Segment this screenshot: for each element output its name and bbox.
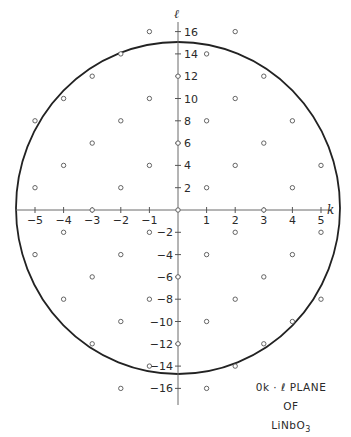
reflection-point: [290, 252, 294, 256]
caption-subscript: 3: [305, 425, 311, 434]
l-axis-label: ℓ: [174, 7, 179, 21]
reflection-point: [33, 119, 37, 123]
l-tick-label: −10: [150, 316, 173, 329]
reflection-point: [61, 163, 65, 167]
reflection-point: [233, 29, 237, 33]
k-tick-label: −3: [84, 214, 100, 227]
l-tick-label: 12: [184, 70, 198, 83]
reflection-point: [33, 186, 37, 190]
reflection-point: [90, 342, 94, 346]
reflection-point: [319, 297, 323, 301]
reflection-point: [290, 119, 294, 123]
k-tick-label: −5: [27, 214, 43, 227]
l-tick-label: −16: [150, 382, 173, 395]
l-tick-label: −6: [157, 271, 173, 284]
reflection-point: [90, 141, 94, 145]
reflection-point: [119, 319, 123, 323]
reflection-point: [176, 208, 180, 212]
reflection-point: [61, 230, 65, 234]
reflection-point: [262, 342, 266, 346]
k-tick-label: 2: [232, 214, 239, 227]
reflection-point: [176, 74, 180, 78]
reflection-point: [61, 297, 65, 301]
reflection-point: [176, 275, 180, 279]
l-tick-label: 10: [184, 93, 198, 106]
l-tick-label: −8: [157, 293, 173, 306]
reflection-point: [147, 297, 151, 301]
reflection-point: [204, 186, 208, 190]
reflection-point: [319, 163, 323, 167]
reflection-point: [204, 386, 208, 390]
reflection-point: [147, 96, 151, 100]
reflection-point: [233, 163, 237, 167]
reflection-point: [176, 342, 180, 346]
l-tick-label: 16: [184, 26, 198, 39]
l-tick-label: 4: [184, 159, 191, 172]
reflection-point: [233, 364, 237, 368]
reflection-point: [204, 52, 208, 56]
caption-compound: LiNbO: [271, 419, 305, 431]
caption-line-2: OF: [236, 397, 346, 416]
reflection-point: [119, 186, 123, 190]
k-tick-label: 4: [289, 214, 296, 227]
reflection-point: [147, 364, 151, 368]
k-tick-label: 1: [203, 214, 210, 227]
k-tick-label: −4: [55, 214, 71, 227]
reflection-point: [119, 119, 123, 123]
k-tick-label: −2: [113, 214, 129, 227]
reflection-point: [262, 208, 266, 212]
l-tick-label: 14: [184, 48, 198, 61]
reflection-point: [233, 96, 237, 100]
reflection-point: [119, 386, 123, 390]
reflection-point: [147, 230, 151, 234]
reflection-point: [90, 208, 94, 212]
reflection-point: [204, 119, 208, 123]
reflection-point: [33, 252, 37, 256]
reflection-point: [290, 319, 294, 323]
l-tick-label: 8: [184, 115, 191, 128]
k-axis-label: k: [327, 203, 334, 217]
l-tick-label: 6: [184, 137, 191, 150]
reflection-point: [90, 275, 94, 279]
k-tick-label: 5: [318, 214, 325, 227]
reflection-point: [61, 96, 65, 100]
reflection-point: [262, 275, 266, 279]
k-tick-label: 3: [260, 214, 267, 227]
reflection-point: [262, 141, 266, 145]
reflection-point: [233, 297, 237, 301]
reflection-point: [290, 186, 294, 190]
diagram-caption: 0k · ℓ PLANE OF LiNbO3: [236, 378, 346, 437]
l-tick-label: −14: [150, 360, 173, 373]
l-tick-label: −4: [157, 249, 173, 262]
reflection-point: [176, 141, 180, 145]
reflection-point: [147, 29, 151, 33]
reflection-point: [119, 252, 123, 256]
reciprocal-lattice-diagram: −5−4−3−2−112345161412108642−2−4−6−8−10−1…: [0, 0, 351, 437]
reflection-point: [147, 163, 151, 167]
reflection-point: [204, 252, 208, 256]
caption-line-1: 0k · ℓ PLANE: [236, 378, 346, 397]
l-tick-label: −2: [157, 226, 173, 239]
k-tick-label: −1: [141, 214, 157, 227]
reflection-point: [119, 52, 123, 56]
caption-line-3: LiNbO3: [236, 416, 346, 437]
reflection-point: [262, 74, 266, 78]
reflection-point: [204, 319, 208, 323]
reflection-point: [319, 230, 323, 234]
reflection-point: [90, 74, 94, 78]
l-tick-label: −12: [150, 338, 173, 351]
l-tick-label: 2: [184, 182, 191, 195]
reflection-point: [233, 230, 237, 234]
